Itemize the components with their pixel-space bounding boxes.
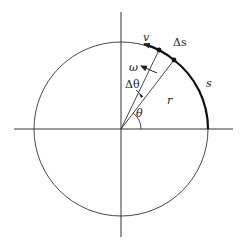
delta-theta-wedge <box>139 93 143 98</box>
label-r: r <box>167 94 173 107</box>
point-1 <box>172 58 177 63</box>
omega-arrow <box>141 66 157 73</box>
arc-s <box>174 60 208 129</box>
label-delta-s: Δs <box>173 36 187 49</box>
label-s: s <box>206 77 212 90</box>
point-2 <box>157 48 162 53</box>
label-omega: ω <box>129 61 138 74</box>
circular-motion-diagram: v Δs s ω Δθ r θ <box>0 0 240 249</box>
velocity-arrow <box>144 44 159 50</box>
label-theta: θ <box>136 107 143 120</box>
label-delta-theta: Δθ <box>125 78 140 91</box>
arc-delta-s <box>159 50 174 60</box>
label-v: v <box>143 31 150 44</box>
